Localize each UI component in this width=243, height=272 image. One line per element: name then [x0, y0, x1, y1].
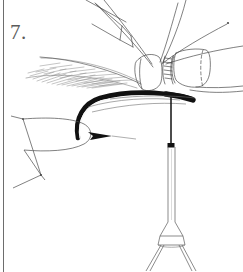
stylet-tube: [168, 147, 175, 222]
insect-line-drawing: [0, 0, 243, 272]
palp-edge: [40, 57, 141, 84]
stylet-terminus: [146, 222, 196, 271]
eye-connector: [163, 56, 173, 84]
figure-page: 7.: [0, 0, 243, 272]
barb: [88, 132, 136, 140]
head-outline: [190, 86, 243, 92]
eye-right: [172, 49, 210, 87]
stylet: [168, 97, 176, 222]
eye-left: [135, 54, 162, 90]
palp-feather-strokes: [28, 63, 132, 88]
antenna-upper-right: [163, 22, 243, 64]
stylet-node: [168, 143, 175, 148]
foot-legs: [146, 245, 196, 271]
